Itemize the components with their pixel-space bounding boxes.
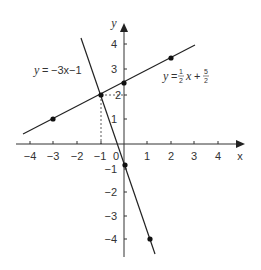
line2-equation-label: y = 1 2 x + 5 2	[162, 68, 209, 84]
x-tick-label: −4	[24, 150, 37, 162]
x-axis-arrow-icon	[236, 140, 245, 148]
svg-text:x: x	[185, 69, 192, 83]
svg-text:+: +	[194, 70, 200, 82]
y-tick-label: 4	[111, 38, 117, 50]
y-tick-label: −3	[104, 210, 117, 222]
y-axis-arrow-icon	[120, 23, 128, 32]
svg-text:5: 5	[204, 68, 208, 75]
svg-text:y: y	[33, 63, 40, 77]
x-tick-label: −2	[71, 150, 84, 162]
y-tick-label: −4	[104, 233, 117, 245]
svg-text:=: =	[171, 70, 177, 82]
line-y-eq-neg3x-minus1	[81, 38, 155, 254]
x-tick-label: 3	[191, 150, 197, 162]
origin-label: 0	[113, 150, 119, 162]
svg-text:−3x−1: −3x−1	[51, 64, 82, 76]
svg-text:1: 1	[179, 68, 183, 75]
y-tick-label: −2	[104, 186, 117, 198]
y-tick-label: 3	[111, 63, 117, 75]
y-axis-label: y	[110, 16, 117, 30]
x-tick-label: 4	[215, 150, 221, 162]
point-y-intercept-line1	[122, 162, 127, 167]
x-axis-label: x	[237, 150, 243, 162]
svg-text:y: y	[162, 69, 169, 83]
point-1-neg4	[147, 236, 152, 241]
svg-text:2: 2	[204, 77, 208, 84]
point-intersection	[98, 92, 103, 97]
svg-text:2: 2	[179, 77, 183, 84]
point-0-2.5	[121, 80, 126, 85]
y-tick-label: −1	[104, 163, 117, 175]
coordinate-plane-chart: −4 −3 −2 −1 0 1 2 3 4 x 4 3 2 1 −1 −2 −3…	[0, 0, 261, 270]
x-tick-label: 2	[168, 150, 174, 162]
point-2-3.5	[168, 55, 173, 60]
point-neg3-1	[50, 116, 55, 121]
x-tick-label: −1	[94, 150, 107, 162]
svg-text:=: =	[42, 64, 48, 76]
line1-equation-label: y = −3x−1	[33, 63, 82, 77]
x-tick-label: 1	[144, 150, 150, 162]
x-tick-label: −3	[47, 150, 60, 162]
y-tick-label: 1	[111, 113, 117, 125]
